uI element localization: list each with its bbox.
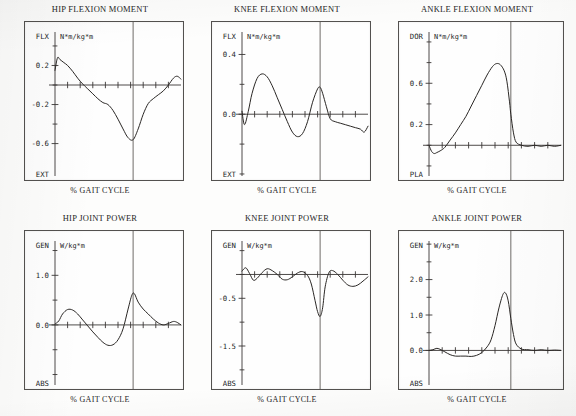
- svg-text:1.0: 1.0: [36, 271, 49, 280]
- panel-ankle-flexion-moment: ANKLE FLEXION MOMENT 0.60.2DORPLAN*m/kg*…: [384, 2, 570, 206]
- x-axis-label: % GAIT CYCLE: [197, 186, 377, 195]
- y-axis-positive-direction-label: GEN: [36, 241, 49, 250]
- panel-hip-flexion-moment: HIP FLEXION MOMENT 0.2-0.2-0.6FLXEXTN*m/…: [10, 2, 190, 206]
- svg-text:0.0: 0.0: [410, 346, 423, 355]
- svg-text:-0.6: -0.6: [31, 139, 49, 148]
- x-axis-label: % GAIT CYCLE: [197, 395, 377, 404]
- y-axis-positive-direction-label: DOR: [410, 32, 424, 41]
- plot-canvas: 0.60.2DORPLAN*m/kg*m: [399, 22, 564, 181]
- data-curve: [429, 63, 561, 153]
- svg-text:-0.5: -0.5: [218, 294, 236, 303]
- y-axis-unit-label: N*m/kg*m: [434, 33, 467, 41]
- panel-hip-joint-power: HIP JOINT POWER 1.00.0GENABSW/kg*m % GAI…: [10, 211, 190, 415]
- y-axis-unit-label: N*m/kg*m: [60, 33, 93, 41]
- y-axis-unit-label: W/kg*m: [434, 242, 459, 250]
- plot-canvas: 0.40.0FLXEXTN*m/kg*m: [212, 22, 371, 181]
- plot-area: 1.00.0GENABSW/kg*m: [24, 230, 184, 390]
- plot-area: 0.2-0.2-0.6FLXEXTN*m/kg*m: [24, 21, 184, 181]
- plot-area: 2.01.00.0GENABSW/kg*m: [398, 230, 564, 390]
- svg-text:0.0: 0.0: [223, 110, 236, 119]
- plot-canvas: -0.5-1.5GENABSW/kg*m: [212, 231, 371, 390]
- data-curve: [429, 292, 561, 356]
- data-curve: [55, 293, 181, 346]
- plot-canvas: 1.00.0GENABSW/kg*m: [25, 231, 184, 390]
- svg-text:0.0: 0.0: [36, 321, 49, 330]
- svg-text:-0.2: -0.2: [31, 100, 49, 109]
- gait-figure-grid: HIP FLEXION MOMENT 0.2-0.2-0.6FLXEXTN*m/…: [0, 0, 576, 416]
- y-axis-positive-direction-label: GEN: [223, 241, 236, 250]
- y-axis-positive-direction-label: FLX: [223, 32, 237, 41]
- panel-title: ANKLE FLEXION MOMENT: [384, 4, 570, 14]
- y-axis-positive-direction-label: FLX: [36, 32, 50, 41]
- y-axis-negative-direction-label: EXT: [223, 170, 237, 179]
- svg-text:0.2: 0.2: [410, 120, 423, 129]
- panel-knee-joint-power: KNEE JOINT POWER -0.5-1.5GENABSW/kg*m % …: [197, 211, 377, 415]
- y-axis-unit-label: W/kg*m: [247, 242, 272, 250]
- panel-title: KNEE FLEXION MOMENT: [197, 4, 377, 14]
- panel-title: KNEE JOINT POWER: [197, 213, 377, 223]
- y-axis-negative-direction-label: ABS: [410, 379, 423, 388]
- svg-text:-1.5: -1.5: [218, 342, 236, 351]
- panel-knee-flexion-moment: KNEE FLEXION MOMENT 0.40.0FLXEXTN*m/kg*m…: [197, 2, 377, 206]
- panel-ankle-joint-power: ANKLE JOINT POWER 2.01.00.0GENABSW/kg*m …: [384, 211, 570, 415]
- svg-text:0.4: 0.4: [223, 50, 237, 59]
- svg-text:0.2: 0.2: [36, 61, 49, 70]
- data-curve: [55, 57, 181, 140]
- x-axis-label: % GAIT CYCLE: [384, 395, 570, 404]
- y-axis-unit-label: W/kg*m: [60, 242, 85, 250]
- plot-canvas: 0.2-0.2-0.6FLXEXTN*m/kg*m: [25, 22, 184, 181]
- y-axis-negative-direction-label: PLA: [410, 170, 424, 179]
- panel-title: ANKLE JOINT POWER: [384, 213, 570, 223]
- panel-title: HIP JOINT POWER: [10, 213, 190, 223]
- x-axis-label: % GAIT CYCLE: [384, 186, 570, 195]
- y-axis-positive-direction-label: GEN: [410, 241, 423, 250]
- y-axis-unit-label: N*m/kg*m: [247, 33, 280, 41]
- panel-title: HIP FLEXION MOMENT: [10, 4, 190, 14]
- svg-text:2.0: 2.0: [410, 275, 423, 284]
- svg-text:0.6: 0.6: [410, 79, 423, 88]
- plot-area: 0.40.0FLXEXTN*m/kg*m: [211, 21, 371, 181]
- x-axis-label: % GAIT CYCLE: [10, 186, 190, 195]
- svg-text:1.0: 1.0: [410, 311, 423, 320]
- plot-canvas: 2.01.00.0GENABSW/kg*m: [399, 231, 564, 390]
- data-curve: [242, 74, 368, 137]
- y-axis-negative-direction-label: ABS: [223, 379, 236, 388]
- plot-area: -0.5-1.5GENABSW/kg*m: [211, 230, 371, 390]
- plot-area: 0.60.2DORPLAN*m/kg*m: [398, 21, 564, 181]
- x-axis-label: % GAIT CYCLE: [10, 395, 190, 404]
- y-axis-negative-direction-label: EXT: [36, 170, 50, 179]
- y-axis-negative-direction-label: ABS: [36, 379, 49, 388]
